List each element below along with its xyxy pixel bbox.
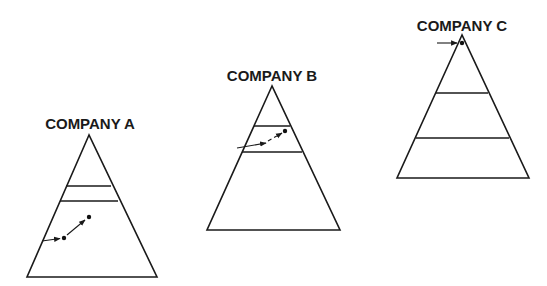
company-b-entry-arrow — [237, 143, 266, 148]
company-c-pyramid — [397, 35, 529, 178]
company-a-entry-arrow — [42, 239, 60, 242]
company-a-progress-arrow — [67, 220, 85, 235]
company-c-dot — [460, 41, 464, 45]
pyramid-diagram: COMPANY A COMPANY B COMPANY C — [0, 0, 547, 286]
company-a-dot-2 — [87, 215, 91, 219]
company-b-dashed-arrow — [268, 133, 282, 141]
company-a-group: COMPANY A — [27, 115, 157, 277]
company-c-group: COMPANY C — [397, 17, 529, 178]
company-c-title: COMPANY C — [417, 17, 507, 34]
company-a-title: COMPANY A — [45, 115, 135, 132]
company-b-dot — [283, 129, 287, 133]
company-a-dot-1 — [62, 236, 66, 240]
company-a-pyramid — [27, 135, 157, 277]
company-b-title: COMPANY B — [227, 67, 317, 84]
company-b-pyramid — [207, 86, 340, 230]
company-b-group: COMPANY B — [207, 67, 340, 230]
